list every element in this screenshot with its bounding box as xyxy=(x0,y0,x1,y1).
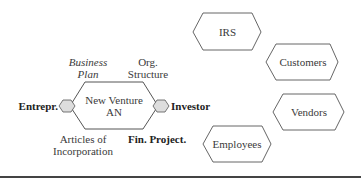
entrepr-port-icon xyxy=(59,100,75,112)
articles-of-incorporation-label: Articles of Incorporation xyxy=(38,133,128,157)
new-venture-line2: AN xyxy=(85,106,143,118)
business-plan-line2: Plan xyxy=(58,68,118,80)
fin-project-label: Fin. Project. xyxy=(128,133,198,145)
new-venture-line1: New Venture xyxy=(85,94,143,106)
business-plan-line1: Business xyxy=(58,56,118,68)
org-structure-label: Org. Structure xyxy=(118,56,178,80)
entrepr-label: Entrepr. xyxy=(16,100,58,112)
articles-line1: Articles of xyxy=(38,133,128,145)
business-plan-label: Business Plan xyxy=(58,56,118,80)
employees-label: Employees xyxy=(209,138,265,150)
irs-label: IRS xyxy=(203,26,252,38)
org-structure-line1: Org. xyxy=(118,56,178,68)
org-structure-line2: Structure xyxy=(118,68,178,80)
vendors-label: Vendors xyxy=(283,106,335,118)
investor-port-icon xyxy=(153,100,169,112)
customers-label: Customers xyxy=(272,56,334,68)
investor-label: Investor xyxy=(171,100,215,112)
articles-line2: Incorporation xyxy=(38,145,128,157)
new-venture-label: New Venture AN xyxy=(85,94,143,118)
